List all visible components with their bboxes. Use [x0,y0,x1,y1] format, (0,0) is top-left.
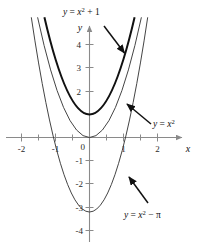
parabola-graph: -2 -1 1 2 4 3 2 -1 -2 -3 -4 0 y x y = x2… [0,0,197,248]
x-tick-2: 2 [155,144,160,154]
label-right-exp: 2 [172,118,175,125]
x-tick-1: 1 [121,144,126,154]
label-x2-plus-1: y = x2 + 1 [62,6,100,17]
x-tick--2: -2 [18,144,26,154]
svg-text:y = x2 + 1: y = x2 + 1 [62,6,100,17]
y-axis-label: y [77,22,83,33]
svg-text:y = x2 − π: y = x2 − π [123,209,161,220]
label-top-tail: + 1 [85,7,100,17]
svg-text:y = x2: y = x2 [152,118,175,129]
label-right-eq: = [157,119,167,129]
y-tick-4: 4 [77,40,82,50]
y-tick--3: -3 [76,203,84,213]
y-tick-2: 2 [77,87,82,97]
y-tick-3: 3 [77,63,82,73]
annotation-arrows [104,26,151,203]
label-x2-minus-pi: y = x2 − π [123,209,161,220]
arrow-to-x2-minus-pi [129,177,148,203]
y-tick--4: -4 [76,226,84,236]
figure-canvas: -2 -1 1 2 4 3 2 -1 -2 -3 -4 0 y x y = x2… [0,0,197,248]
label-bottom-tail: − π [146,210,161,220]
x-axis-label: x [185,143,191,154]
x-tick-labels: -2 -1 1 2 [18,144,160,154]
y-tick--2: -2 [76,179,84,189]
origin-label: 0 [81,142,86,152]
label-x2: y = x2 [152,118,175,129]
label-top-eq: = [67,7,77,17]
label-bottom-eq: = [128,210,138,220]
x-tick--1: -1 [52,144,60,154]
arrow-to-x2-plus-1 [104,26,125,53]
y-tick--1: -1 [76,156,84,166]
